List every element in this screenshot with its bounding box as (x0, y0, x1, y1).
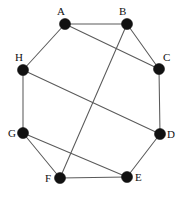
graph-node-a[interactable] (60, 19, 71, 30)
graph-node-h[interactable] (18, 65, 29, 76)
graph-node-label-e: E (135, 172, 142, 183)
graph-node-g[interactable] (18, 128, 29, 139)
graph-edge-c-d (159, 69, 160, 134)
graph-edge-f-g (23, 133, 60, 178)
graph-figure: ABCDEFGH (0, 0, 183, 197)
graph-edge-e-g (23, 133, 127, 177)
graph-node-e[interactable] (122, 172, 133, 183)
graph-edge-d-h (23, 70, 160, 134)
graph-node-label-a: A (57, 6, 65, 17)
graph-node-label-d: D (167, 129, 175, 140)
graph-edge-b-f (60, 24, 127, 178)
graph-canvas (0, 0, 183, 197)
graph-node-c[interactable] (154, 64, 165, 75)
edge-layer (23, 24, 160, 178)
graph-node-b[interactable] (122, 19, 133, 30)
graph-node-label-g: G (8, 128, 16, 139)
node-layer (18, 19, 166, 184)
graph-edge-a-c (65, 24, 159, 69)
graph-node-label-b: B (119, 6, 126, 17)
graph-edge-a-h (23, 24, 65, 70)
graph-node-label-c: C (163, 52, 170, 63)
graph-node-label-f: F (45, 173, 51, 184)
graph-edge-d-e (127, 134, 160, 177)
graph-node-d[interactable] (155, 129, 166, 140)
graph-edge-b-c (127, 24, 159, 69)
graph-node-label-h: H (15, 52, 23, 63)
graph-node-f[interactable] (55, 173, 66, 184)
graph-edge-e-f (60, 177, 127, 178)
